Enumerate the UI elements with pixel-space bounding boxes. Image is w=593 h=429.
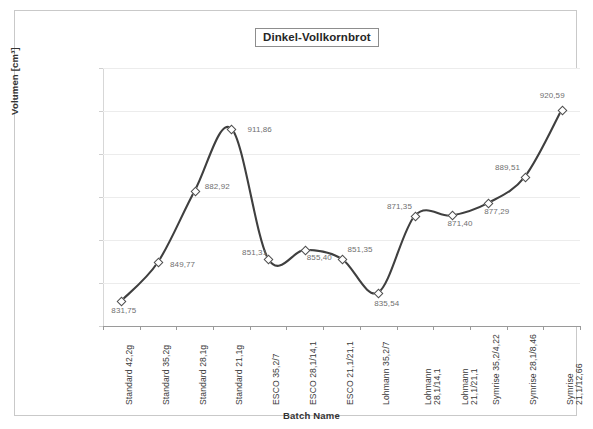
x-axis-title: Batch Name <box>15 410 593 421</box>
x-axis-tick-mark <box>507 326 508 330</box>
x-axis-tick-mark <box>360 326 361 330</box>
data-point-label: 851,31 <box>242 248 267 257</box>
x-axis-tick-mark <box>103 326 104 330</box>
y-axis-tick-mark <box>99 240 103 241</box>
x-axis-tick-mark <box>543 326 544 330</box>
x-axis-tick-label: Symrise 21,1/12,66 <box>566 331 584 405</box>
data-point-label: 871,35 <box>387 202 412 211</box>
data-point-label: 871,40 <box>448 219 473 228</box>
x-axis-tick-label: Lohmann 21,1/21,1 <box>461 331 479 405</box>
chart-title: Dinkel-Vollkornbrot <box>255 28 379 47</box>
x-axis-tick-mark <box>397 326 398 330</box>
data-point-label: 920,59 <box>540 91 565 100</box>
data-point-label: 882,92 <box>205 182 230 191</box>
y-axis-tick-mark <box>99 111 103 112</box>
y-axis-tick-mark <box>99 197 103 198</box>
plot-area <box>103 68 580 326</box>
x-axis-line <box>103 326 580 327</box>
data-point-label: 855,40 <box>307 253 332 262</box>
x-axis-tick-label: Standard 21,1g <box>235 331 244 405</box>
data-point-label: 835,54 <box>374 299 399 308</box>
x-axis-tick-label: Lohmann 28,1/14,1 <box>424 331 442 405</box>
x-axis-tick-label: ESCO 35,2/7 <box>272 331 281 405</box>
data-point-label: 831,75 <box>111 306 136 315</box>
x-axis-tick-mark <box>176 326 177 330</box>
y-axis-tick-mark <box>99 154 103 155</box>
x-axis-tick-label: Standard 28,1g <box>199 331 208 405</box>
x-axis-tick-mark <box>323 326 324 330</box>
x-axis-tick-label: Symrise 28,1/8,46 <box>529 331 538 405</box>
x-axis-tick-mark <box>250 326 251 330</box>
data-point-label: 911,86 <box>247 125 271 134</box>
x-axis-tick-mark <box>286 326 287 330</box>
x-axis-tick-label: Standard 42,2g <box>125 331 134 405</box>
y-axis-title: Volumen [cm³] <box>9 11 20 151</box>
chart-frame: Dinkel-Vollkornbrot Volumen [cm³] Batch … <box>14 10 577 416</box>
data-point-label: 851,35 <box>348 245 373 254</box>
x-axis-tick-label: ESCO 21,1/21,1 <box>346 331 355 405</box>
x-axis-tick-mark <box>140 326 141 330</box>
y-axis-tick-mark <box>99 68 103 69</box>
data-series-line <box>103 68 580 326</box>
x-axis-tick-label: Symrise 35,2/4,22 <box>492 331 501 405</box>
x-axis-tick-label: Standard 35,2g <box>162 331 171 405</box>
x-axis-tick-label: Lohmann 35,2/7 <box>382 331 391 405</box>
x-axis-tick-mark <box>580 326 581 330</box>
data-point-label: 849,77 <box>170 260 195 269</box>
y-axis-tick-mark <box>99 283 103 284</box>
x-axis-tick-label: ESCO 28,1/14,1 <box>309 331 318 405</box>
x-axis-tick-mark <box>433 326 434 330</box>
data-point-label: 877,29 <box>484 207 509 216</box>
data-point-label: 889,51 <box>495 163 520 172</box>
x-axis-tick-mark <box>213 326 214 330</box>
x-axis-tick-mark <box>470 326 471 330</box>
